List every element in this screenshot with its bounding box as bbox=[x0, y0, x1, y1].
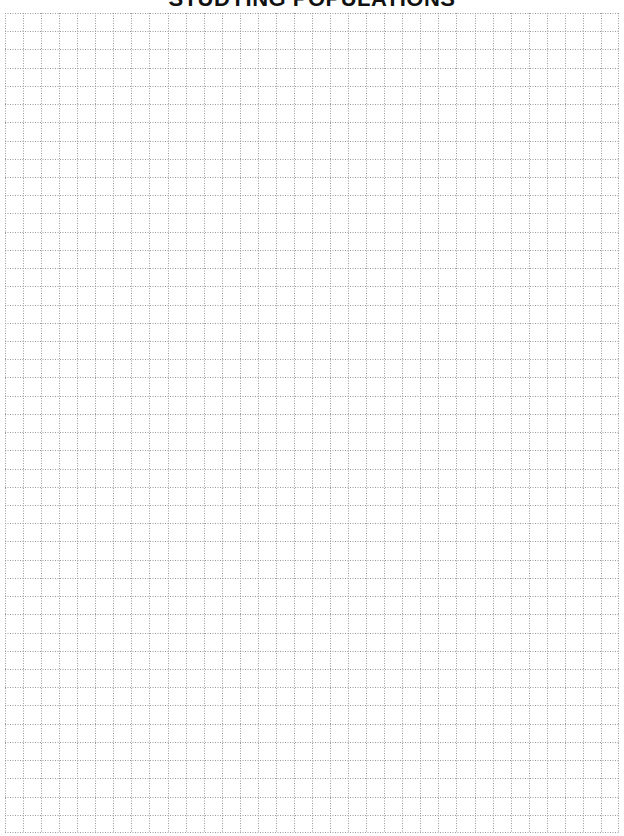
graph-paper-grid bbox=[5, 13, 619, 833]
page-title: STUDYING POPULATIONS bbox=[0, 0, 624, 10]
grid-lines bbox=[5, 13, 619, 833]
